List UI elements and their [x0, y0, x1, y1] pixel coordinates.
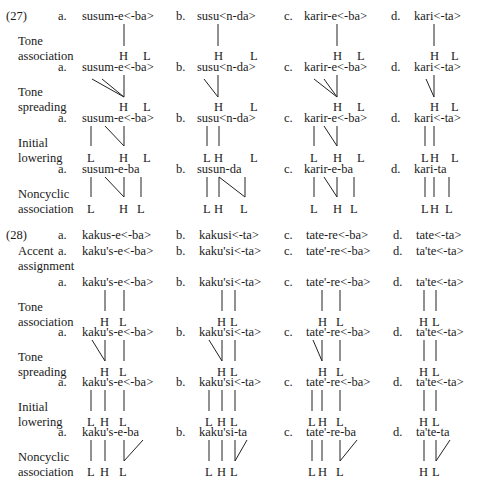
association-line	[436, 440, 450, 461]
association-line	[324, 126, 337, 146]
association-line	[340, 440, 357, 461]
association-line	[313, 340, 322, 361]
association-line	[92, 79, 124, 97]
association-line	[92, 340, 105, 361]
association-line	[105, 126, 124, 146]
association-line	[219, 177, 245, 197]
association-line	[235, 440, 247, 461]
association-line	[324, 177, 337, 197]
association-line	[102, 79, 124, 97]
association-line	[426, 79, 434, 97]
association-line	[105, 177, 124, 197]
association-lines	[0, 0, 481, 486]
association-line	[124, 440, 143, 461]
association-line	[209, 340, 222, 361]
association-line	[204, 79, 218, 97]
